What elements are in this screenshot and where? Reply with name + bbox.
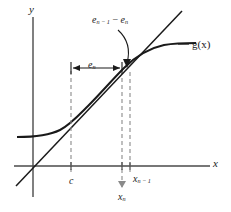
xn-pointer-arrow	[118, 181, 126, 188]
identity-line	[16, 11, 182, 186]
error-measure-arrow	[71, 62, 122, 74]
en-subscript: n	[92, 63, 95, 70]
curve-label-gx: g(x)	[192, 39, 210, 50]
tick-label-xn-minus-1: xn − 1	[133, 174, 151, 184]
annotation-error-difference: en − 1 − en	[92, 15, 128, 25]
tick-label-c: c	[69, 176, 73, 186]
diff-first-subscript: n − 1	[96, 18, 109, 25]
difference-leader-arrow	[118, 30, 131, 68]
x-axis-label: x	[213, 158, 218, 169]
annotation-error-current: en	[88, 60, 96, 70]
xnm1-subscript: n − 1	[137, 177, 150, 184]
figure-canvas: y x g(x) c xn − 1 xn en en − 1 − en	[0, 0, 231, 212]
xn-subscript: n	[122, 195, 125, 202]
diff-second-subscript: n	[125, 18, 128, 25]
diagram-svg	[0, 0, 231, 212]
y-axis-label: y	[29, 4, 34, 15]
tick-label-xn: xn	[118, 192, 126, 202]
diff-operator: −	[110, 14, 121, 25]
